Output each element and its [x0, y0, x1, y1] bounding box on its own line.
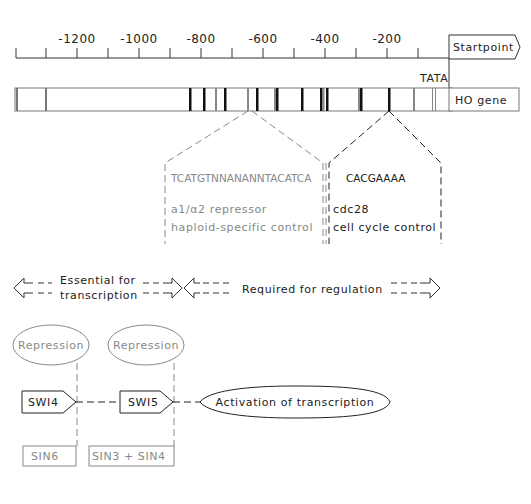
right-element-function: cell cycle control [333, 221, 436, 234]
essential-label-line2: transcription [60, 289, 138, 302]
swi5-label: SWI5 [128, 396, 159, 409]
ho-gene-label: HO gene [455, 94, 507, 107]
repression-right-label: Repression [113, 339, 179, 352]
tick-label-400: -400 [310, 32, 339, 46]
sin6-box: SIN6 [23, 446, 76, 466]
swi5-box: SWI5 [120, 391, 173, 413]
regulation-region-arrow: Required for regulation [184, 278, 440, 298]
essential-label-line1: Essential for [60, 274, 136, 287]
essential-region-arrow: Essential for transcription [14, 274, 182, 302]
sin6-label: SIN6 [31, 450, 59, 463]
swi4-box: SWI4 [22, 391, 76, 413]
repression-left-label: Repression [18, 339, 84, 352]
right-element-factor: cdc28 [333, 203, 369, 216]
ho-gene-diagram: -1200 -1000 -800 -600 -400 -200 Startpoi… [0, 0, 531, 504]
left-element-sequence: TCATGTNNANANNTACATCA [170, 172, 312, 184]
startpoint-label: Startpoint [453, 41, 514, 54]
activation-node: Activation of transcription [200, 386, 390, 418]
left-element-function: haploid-specific control [171, 221, 313, 234]
sin3-sin4-label: SIN3 + SIN4 [92, 450, 166, 463]
tick-label-1200: -1200 [58, 32, 95, 46]
callout-right: CACGAAAA cdc28 cell cycle control [329, 111, 441, 244]
position-axis: -1200 -1000 -800 -600 -400 -200 [16, 32, 449, 58]
tick-label-1000: -1000 [120, 32, 157, 46]
promoter-region [15, 88, 452, 111]
callout-left: TCATGTNNANANNTACATCA a1/α2 repressor hap… [165, 111, 326, 244]
right-element-sequence: CACGAAAA [346, 172, 406, 184]
left-element-factor: a1/α2 repressor [171, 203, 267, 216]
tick-label-800: -800 [186, 32, 215, 46]
activation-label: Activation of transcription [216, 396, 375, 409]
regulation-label: Required for regulation [242, 283, 383, 296]
tick-label-200: -200 [372, 32, 401, 46]
axis-ticks [16, 48, 418, 58]
promoter-bar: HO gene [15, 88, 519, 111]
repression-right: Repression [108, 325, 184, 365]
repression-left: Repression [13, 325, 89, 365]
tick-label-600: -600 [248, 32, 277, 46]
sin3-sin4-box: SIN3 + SIN4 [89, 446, 174, 466]
swi4-label: SWI4 [28, 396, 59, 409]
tata-label: TATA [419, 72, 448, 85]
